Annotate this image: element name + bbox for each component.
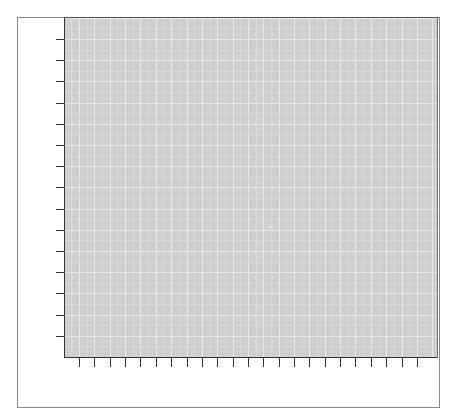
grid-minor-h bbox=[65, 219, 437, 220]
grid-minor-h bbox=[65, 28, 437, 29]
grid-minor-h bbox=[65, 92, 437, 93]
grid-minor-h bbox=[65, 262, 437, 263]
x-axis-tick bbox=[187, 358, 188, 367]
grid-major-h bbox=[65, 60, 437, 61]
y-axis-tick bbox=[56, 103, 64, 104]
y-axis-tick bbox=[56, 166, 64, 167]
y-axis-tick bbox=[56, 251, 64, 252]
grid-major-h bbox=[65, 39, 437, 40]
grid-minor-h bbox=[65, 304, 437, 305]
x-axis-tick bbox=[125, 358, 126, 367]
x-axis-tick bbox=[279, 358, 280, 367]
grid-major-h bbox=[65, 209, 437, 210]
grid-major-h bbox=[65, 166, 437, 167]
grid-minor-h bbox=[65, 325, 437, 326]
y-axis-tick bbox=[56, 272, 64, 273]
x-axis-tick bbox=[386, 358, 387, 367]
grid-minor-h bbox=[65, 71, 437, 72]
x-axis-tick bbox=[233, 358, 234, 367]
y-axis-tick bbox=[56, 60, 64, 61]
y-axis-tick bbox=[56, 336, 64, 337]
y-axis-tick bbox=[56, 187, 64, 188]
x-axis-tick bbox=[340, 358, 341, 367]
grid-major-h bbox=[65, 251, 437, 252]
grid-major-h bbox=[65, 187, 437, 188]
y-axis-tick bbox=[56, 81, 64, 82]
grid-major-h bbox=[65, 230, 437, 231]
x-axis-tick bbox=[417, 358, 418, 367]
grid-major-h bbox=[65, 145, 437, 146]
y-axis-tick bbox=[56, 209, 64, 210]
grid-minor-h bbox=[65, 134, 437, 135]
x-axis-tick bbox=[94, 358, 95, 367]
x-axis-tick bbox=[217, 358, 218, 367]
x-axis-tick bbox=[355, 358, 356, 367]
grid-major-h bbox=[65, 336, 437, 337]
grid-major-h bbox=[65, 272, 437, 273]
grid-minor-h bbox=[65, 198, 437, 199]
grid-minor-h bbox=[65, 113, 437, 114]
x-axis-tick bbox=[294, 358, 295, 367]
grid-major-h bbox=[65, 124, 437, 125]
grid-major-h bbox=[65, 315, 437, 316]
x-axis-tick bbox=[325, 358, 326, 367]
x-axis-tick bbox=[110, 358, 111, 367]
x-axis-tick bbox=[309, 358, 310, 367]
grid-minor-h bbox=[65, 50, 437, 51]
plot-panel bbox=[64, 17, 438, 358]
x-axis-tick bbox=[171, 358, 172, 367]
y-axis-tick bbox=[56, 230, 64, 231]
grid-minor-h bbox=[65, 177, 437, 178]
grid-minor-h bbox=[65, 240, 437, 241]
grid-major-h bbox=[65, 103, 437, 104]
grid-minor-h bbox=[65, 346, 437, 347]
x-axis-tick bbox=[248, 358, 249, 367]
grid-major-h bbox=[65, 18, 437, 19]
y-axis-tick bbox=[56, 124, 64, 125]
x-axis-tick bbox=[371, 358, 372, 367]
x-axis-tick bbox=[263, 358, 264, 367]
y-axis-tick bbox=[56, 315, 64, 316]
grid-major-h bbox=[65, 293, 437, 294]
y-axis-tick bbox=[56, 145, 64, 146]
x-axis-tick bbox=[79, 358, 80, 367]
x-axis-tick bbox=[402, 358, 403, 367]
x-axis-tick bbox=[140, 358, 141, 367]
grid-minor-h bbox=[65, 283, 437, 284]
y-axis-tick bbox=[56, 293, 64, 294]
x-axis-tick bbox=[202, 358, 203, 367]
grid-minor-h bbox=[65, 156, 437, 157]
grid-major-h bbox=[65, 81, 437, 82]
y-axis-tick bbox=[56, 39, 64, 40]
x-axis-tick bbox=[156, 358, 157, 367]
data-point bbox=[269, 226, 271, 228]
